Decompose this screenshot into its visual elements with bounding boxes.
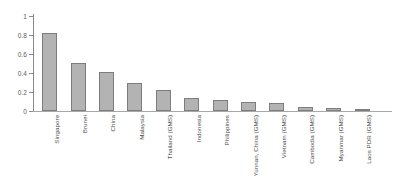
bar	[99, 72, 114, 111]
x-label-slot: Philippines	[207, 113, 233, 181]
bar-slot	[64, 16, 92, 111]
y-tick-label: 0.2	[18, 89, 27, 96]
x-tick-label: Cambodia (GMS)	[308, 115, 315, 164]
bar	[355, 109, 370, 111]
y-tick-mark	[29, 73, 33, 74]
bar	[184, 98, 199, 111]
x-tick-label: Vietnam (GMS)	[280, 115, 287, 158]
x-label-slot: Yunnan, China (GMS)	[236, 113, 262, 181]
y-tick-mark	[29, 54, 33, 55]
x-label-slot: Vietnam (GMS)	[264, 113, 290, 181]
y-tick-mark	[29, 92, 33, 93]
y-tick-mark	[29, 111, 33, 112]
bar-slot	[206, 16, 234, 111]
x-label-slot: Thailand (GMS)	[150, 113, 176, 181]
bar	[241, 102, 256, 111]
y-tick-label: 0.4	[18, 70, 27, 77]
x-tick-label: Indonesia	[195, 115, 202, 142]
x-tick-label: Yunnan, China (GMS)	[252, 115, 259, 176]
x-tick-label: Myanmar (GMS)	[337, 115, 344, 161]
x-tick-label: Malaysia	[138, 115, 145, 140]
x-axis-baseline	[33, 111, 392, 112]
x-tick-label: China	[109, 115, 116, 131]
bar	[269, 103, 284, 111]
x-tick-label: Singapore	[53, 115, 60, 144]
x-label-slot: Cambodia (GMS)	[292, 113, 318, 181]
x-label-slot: Malaysia	[122, 113, 148, 181]
x-label-slot: Singapore	[37, 113, 63, 181]
bar-slot	[92, 16, 120, 111]
x-axis-tick-labels: SingaporeBruneiChinaMalaysiaThailand (GM…	[34, 113, 392, 181]
bar	[213, 100, 228, 111]
bar	[156, 90, 171, 111]
bar-slot	[291, 16, 319, 111]
bar	[71, 63, 86, 111]
x-label-slot: Laos PDR (GMS)	[349, 113, 375, 181]
plot-area	[34, 16, 392, 111]
y-axis-tick-labels: 00.20.40.60.81	[0, 0, 27, 181]
bar-slot	[348, 16, 376, 111]
x-tick-label: Thailand (GMS)	[166, 115, 173, 159]
bar-slot	[35, 16, 63, 111]
x-label-slot: China	[93, 113, 119, 181]
x-label-slot: Myanmar (GMS)	[321, 113, 347, 181]
y-tick-label: 0.8	[18, 32, 27, 39]
bar-slot	[177, 16, 205, 111]
bar-slot	[320, 16, 348, 111]
x-tick-label: Laos PDR (GMS)	[365, 115, 372, 164]
bar-slot	[263, 16, 291, 111]
x-label-slot: Indonesia	[179, 113, 205, 181]
x-tick-label: Philippines	[223, 115, 230, 145]
y-tick-mark	[29, 35, 33, 36]
y-tick-mark	[29, 16, 33, 17]
y-tick-label: 1	[23, 13, 27, 20]
bar-slot	[234, 16, 262, 111]
bar-slot	[121, 16, 149, 111]
bar	[326, 108, 341, 111]
bar	[298, 107, 313, 111]
y-tick-label: 0	[23, 108, 27, 115]
bar	[127, 83, 142, 112]
y-tick-label: 0.6	[18, 51, 27, 58]
x-label-slot: Brunei	[65, 113, 91, 181]
bar	[42, 33, 57, 111]
x-tick-label: Brunei	[81, 115, 88, 133]
bar-chart: 00.20.40.60.81 SingaporeBruneiChinaMalay…	[0, 0, 395, 181]
bar-slot	[149, 16, 177, 111]
